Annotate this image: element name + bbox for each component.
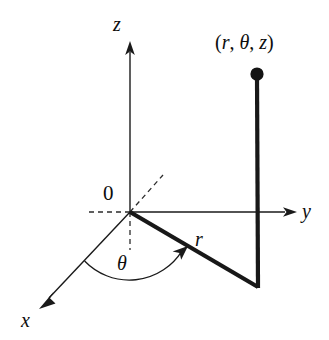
x-axis-label: x (21, 310, 30, 330)
radius-segment (130, 212, 258, 287)
theta-arc-arrowhead (173, 246, 188, 260)
point-label-comma-1: , (229, 31, 239, 53)
z-axis-label: z (113, 14, 121, 34)
theta-angle-label: θ (117, 253, 127, 273)
point-label-z: z (259, 31, 267, 53)
cylindrical-coordinates-diagram: z y x 0 r θ (r, θ, z) (0, 0, 329, 340)
diagram-canvas (0, 0, 329, 340)
y-axis-label: y (302, 201, 311, 221)
theta-angle-arc (85, 251, 182, 280)
radius-label: r (195, 229, 203, 249)
height-segment (257, 76, 258, 288)
point-label-close-paren: ) (267, 31, 274, 53)
dashed-negative-x-axis (130, 175, 163, 212)
coordinate-point-marker (250, 67, 263, 80)
y-axis-arrowhead (283, 207, 297, 217)
origin-label: 0 (103, 183, 114, 204)
point-label-comma-2: , (249, 31, 259, 53)
coordinate-point-label: (r, θ, z) (215, 32, 274, 52)
point-label-open-paren: ( (215, 31, 222, 53)
point-label-theta: θ (239, 31, 249, 53)
